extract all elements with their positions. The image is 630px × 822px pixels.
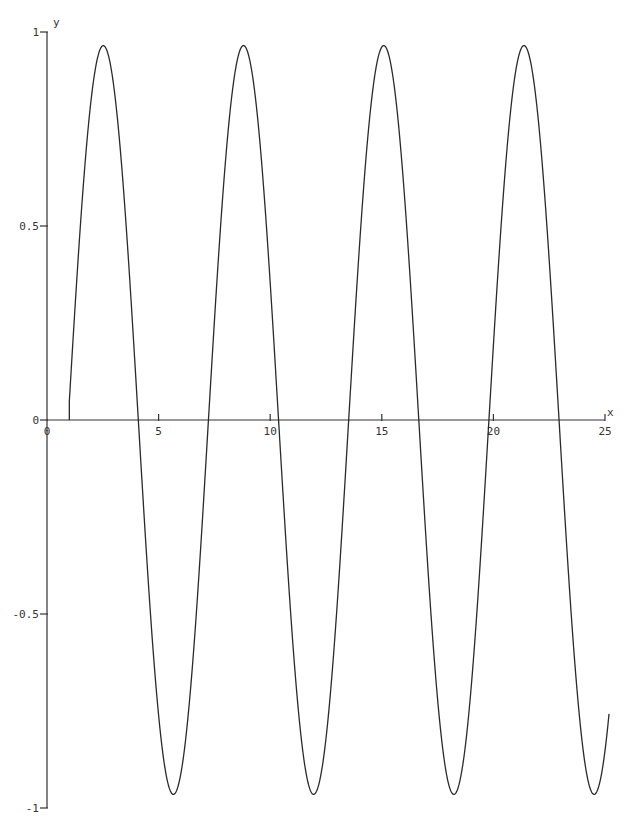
y-tick-label: -0.5 [13,608,40,621]
line-chart: 051015202510.50-0.5-1 x y [0,0,630,822]
y-axis-label: y [53,16,60,29]
x-tick-label: 25 [598,425,611,438]
y-tick-label: 1 [32,26,39,39]
x-axis-label: x [607,406,614,419]
x-tick-label: 5 [155,425,162,438]
y-tick-label: 0 [32,414,39,427]
y-tick-label: 0.5 [19,220,39,233]
x-tick-label: 10 [264,425,277,438]
y-tick-label: -1 [26,802,39,815]
axes [47,32,605,808]
x-tick-label: 15 [375,425,388,438]
x-tick-label: 0 [44,425,51,438]
